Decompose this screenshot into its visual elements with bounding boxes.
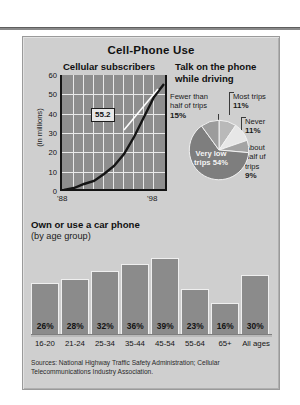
line-chart-plot-area bbox=[60, 75, 167, 191]
bar-value-label: 32% bbox=[91, 321, 119, 331]
pie-label-very-low-trips: Very low trips 54% bbox=[187, 149, 235, 168]
bar-value-label: 39% bbox=[151, 321, 179, 331]
bar-category-label: 35-44 bbox=[120, 339, 150, 348]
bar-value-label: 23% bbox=[181, 321, 209, 331]
bar-chart-heading: Own or use a car phone bbox=[31, 219, 140, 230]
bar-value-label: 28% bbox=[61, 321, 89, 331]
line-chart-series bbox=[62, 75, 167, 191]
bar-value-label: 30% bbox=[241, 321, 269, 331]
pie-label-fewer-than-half: Fewer than half of trips 15% bbox=[170, 92, 216, 120]
pie-chart-graphic: Very low trips 54% bbox=[183, 119, 255, 181]
infographic-panel: Cell-Phone Use Cellular subscribers (in … bbox=[22, 36, 280, 390]
bar-category-label: 16-20 bbox=[30, 339, 60, 348]
bar-category-label: All ages bbox=[238, 339, 274, 348]
bar-category-label: 65+ bbox=[210, 339, 240, 348]
x-tick-start: '88 bbox=[57, 194, 67, 203]
y-tick: 40 bbox=[31, 109, 57, 118]
bar-value-label: 26% bbox=[31, 321, 59, 331]
bar-category-label: 45-54 bbox=[150, 339, 180, 348]
pie-label-most-trips: Most trips 11% bbox=[233, 92, 277, 111]
y-tick: 60 bbox=[31, 71, 57, 80]
y-tick: 0 bbox=[31, 187, 57, 196]
page-canvas: Cell-Phone Use Cellular subscribers (in … bbox=[0, 0, 300, 405]
line-chart-value-callout: 55.2 bbox=[91, 108, 115, 122]
sources-note: Sources: National Highway Traffic Safety… bbox=[31, 359, 259, 376]
bar-chart-subheading: (by age group) bbox=[31, 231, 91, 241]
pie-chart-heading: Talk on the phone while driving bbox=[175, 61, 271, 85]
y-tick: 10 bbox=[31, 167, 57, 176]
pie-chart-section: Talk on the phone while driving Fewer th… bbox=[171, 61, 279, 213]
page-top-rule bbox=[0, 27, 300, 30]
y-tick: 20 bbox=[31, 148, 57, 157]
bar-value-label: 36% bbox=[121, 321, 149, 331]
bar-value-label: 16% bbox=[211, 321, 239, 331]
bar-chart-section: Own or use a car phone (by age group) 26… bbox=[31, 219, 273, 359]
page-title: Cell-Phone Use bbox=[23, 44, 279, 56]
bar-chart-plot-area: 26% 28% 32% 36% 39% bbox=[31, 246, 271, 334]
bar-category-label: 55-64 bbox=[180, 339, 210, 348]
leader-line-most bbox=[229, 92, 234, 115]
y-tick: 50 bbox=[31, 90, 57, 99]
y-tick: 30 bbox=[31, 129, 57, 138]
line-chart-section: Cellular subscribers (in millions) 60 50… bbox=[29, 61, 175, 213]
x-tick-end: '98 bbox=[147, 194, 157, 203]
bar-chart-baseline bbox=[31, 334, 272, 337]
line-chart-heading: Cellular subscribers bbox=[47, 61, 171, 72]
bar-category-label: 21-24 bbox=[60, 339, 90, 348]
bar-category-label: 25-34 bbox=[90, 339, 120, 348]
